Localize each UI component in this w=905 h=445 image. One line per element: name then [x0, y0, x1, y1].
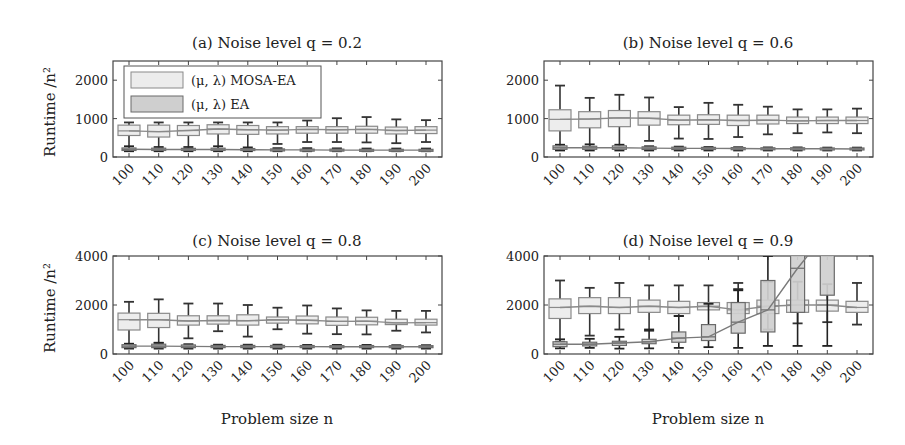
panel-d-xlabel: Problem size n	[652, 410, 765, 428]
figure: (a) Noise level q = 0.2 (b) Noise level …	[0, 0, 905, 445]
legend-swatch-mosa-ea	[131, 72, 183, 88]
series-mosa-ea	[118, 299, 437, 346]
y-tick-label: 0	[100, 150, 108, 165]
x-tick-label: 100	[109, 161, 137, 189]
x-tick-label: 150	[257, 358, 285, 386]
x-tick-label: 140	[228, 161, 256, 189]
x-tick-label: 100	[109, 358, 137, 386]
box	[820, 207, 834, 295]
x-tick-label: 110	[570, 161, 598, 189]
panel-a-ylabel: Runtime /n²	[41, 67, 59, 157]
legend-label-mosa-ea: (μ, λ) MOSA-EA	[191, 73, 296, 88]
chart-canvas: (a) Noise level q = 0.2 (b) Noise level …	[0, 0, 905, 445]
panel-b-title: (b) Noise level q = 0.6	[623, 34, 794, 52]
panel-c-ylabel: Runtime /n²	[41, 263, 59, 353]
x-tick-label: 120	[168, 161, 196, 189]
x-tick-label: 140	[659, 358, 687, 386]
panel-a-title: (a) Noise level q = 0.2	[192, 34, 362, 52]
series-ea	[122, 146, 433, 151]
x-tick-label: 170	[748, 358, 776, 386]
panel-c-xlabel: Problem size n	[221, 410, 334, 428]
box	[118, 313, 140, 330]
series-ea	[122, 343, 433, 349]
x-tick-label: 190	[376, 161, 404, 189]
y-tick-label: 0	[531, 150, 539, 165]
series-ea	[553, 207, 834, 349]
x-tick-label: 130	[198, 358, 226, 386]
box	[702, 325, 716, 341]
x-tick-label: 100	[540, 358, 568, 386]
median-trend-line	[129, 346, 426, 347]
series-ea	[553, 144, 864, 150]
x-tick-label: 190	[807, 358, 835, 386]
plot-frame	[113, 256, 442, 354]
x-tick-label: 200	[837, 358, 865, 386]
x-tick-label: 100	[540, 161, 568, 189]
legend: (μ, λ) MOSA-EA (μ, λ) EA	[124, 66, 321, 118]
x-tick-label: 150	[688, 161, 716, 189]
x-tick-label: 150	[257, 161, 285, 189]
x-tick-label: 130	[198, 161, 226, 189]
x-tick-label: 170	[317, 161, 345, 189]
median-trend-line	[560, 148, 857, 149]
x-tick-label: 160	[718, 358, 746, 386]
panel-d-title: (d) Noise level q = 0.9	[623, 232, 794, 250]
series-mosa-ea	[549, 86, 868, 148]
x-tick-label: 150	[688, 358, 716, 386]
x-tick-label: 170	[748, 161, 776, 189]
box	[672, 332, 686, 342]
x-tick-label: 200	[406, 358, 434, 386]
panel-c: 0200040001001101201301401501601701801902…	[75, 249, 442, 386]
x-tick-label: 190	[807, 161, 835, 189]
x-tick-label: 130	[629, 161, 657, 189]
box	[761, 281, 775, 332]
x-tick-label: 200	[406, 161, 434, 189]
y-tick-label: 0	[531, 347, 539, 362]
x-tick-label: 110	[139, 161, 167, 189]
x-tick-label: 170	[317, 358, 345, 386]
x-tick-label: 140	[228, 358, 256, 386]
x-tick-label: 120	[168, 358, 196, 386]
x-tick-label: 160	[287, 161, 315, 189]
median-trend-line	[129, 149, 426, 150]
x-tick-label: 110	[570, 358, 598, 386]
x-tick-label: 160	[718, 161, 746, 189]
series-mosa-ea	[118, 117, 437, 149]
x-tick-label: 200	[837, 161, 865, 189]
x-tick-label: 180	[778, 161, 806, 189]
x-tick-label: 180	[347, 358, 375, 386]
box	[608, 298, 630, 314]
x-tick-label: 180	[347, 161, 375, 189]
y-tick-label: 2000	[75, 298, 108, 313]
panel-b: 0100020001001101201301401501601701801902…	[506, 61, 873, 189]
y-tick-label: 2000	[506, 298, 539, 313]
box	[731, 303, 745, 334]
y-tick-label: 4000	[506, 249, 539, 264]
panel-c-title: (c) Noise level q = 0.8	[192, 232, 361, 250]
legend-swatch-ea	[131, 96, 183, 112]
box	[549, 110, 571, 131]
x-tick-label: 120	[599, 358, 627, 386]
x-tick-label: 120	[599, 161, 627, 189]
y-tick-label: 1000	[506, 112, 539, 127]
y-tick-label: 2000	[75, 73, 108, 88]
box	[549, 299, 571, 319]
x-tick-label: 160	[287, 358, 315, 386]
x-tick-label: 190	[376, 358, 404, 386]
y-tick-label: 4000	[75, 249, 108, 264]
y-tick-label: 0	[100, 347, 108, 362]
x-tick-label: 180	[778, 358, 806, 386]
x-tick-label: 130	[629, 358, 657, 386]
y-tick-label: 2000	[506, 73, 539, 88]
legend-label-ea: (μ, λ) EA	[191, 97, 250, 112]
x-tick-label: 140	[659, 161, 687, 189]
y-tick-label: 1000	[75, 112, 108, 127]
x-tick-label: 110	[139, 358, 167, 386]
